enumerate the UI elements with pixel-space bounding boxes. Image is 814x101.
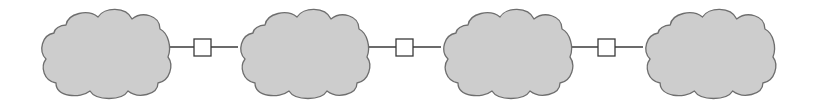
network-chain-diagram: [0, 0, 814, 101]
link-device-box-3: [598, 39, 615, 56]
cloud-icon: [241, 9, 370, 98]
cloud-node-2: [241, 9, 370, 98]
cloud-node-4: [646, 9, 776, 98]
cloud-icon: [646, 9, 776, 98]
cloud-node-1: [42, 9, 171, 98]
cloud-icon: [42, 9, 171, 98]
cloud-icon: [444, 9, 573, 98]
link-device-box-2: [396, 39, 413, 56]
cloud-node-3: [444, 9, 573, 98]
link-device-box-1: [194, 39, 211, 56]
